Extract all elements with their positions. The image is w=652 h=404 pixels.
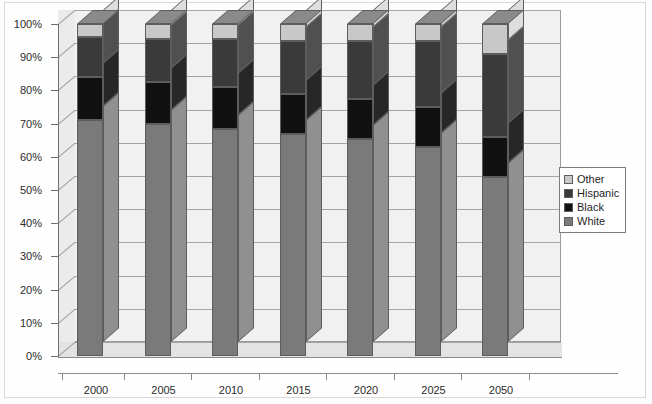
y-axis-label-0: 0% [26,350,42,362]
legend-label-other: Other [577,173,605,185]
y-tick: 70% [51,124,58,125]
bar-2005[interactable] [145,24,171,356]
legend-label-white: White [577,215,605,227]
legend-swatch-other [564,175,573,184]
bar-segment-2005-hispanic[interactable] [145,39,171,82]
chart-page: 0%10%20%30%40%50%60%70%80%90%100% 200020… [0,0,652,404]
y-axis-label-90: 90% [20,51,42,63]
bar-segment-side-2005-white [171,96,187,342]
y-tick: 0% [51,356,58,357]
y-axis-label-70: 70% [20,118,42,130]
bar-segment-2015-other[interactable] [280,24,306,41]
x-axis-label-2000: 2000 [84,384,108,396]
chart-legend: OtherHispanicBlackWhite [559,167,626,233]
bar-segment-2005-other[interactable] [145,24,171,39]
bar-segment-2050-white[interactable] [482,177,508,356]
x-tick [326,373,327,380]
bar-2020[interactable] [347,24,373,356]
bar-segment-2010-hispanic[interactable] [212,39,238,87]
y-tick: 20% [51,290,58,291]
bar-segment-2000-black[interactable] [77,77,103,120]
bar-segment-side-2015-white [306,106,322,342]
y-axis-label-40: 40% [20,217,42,229]
bar-segment-2005-black[interactable] [145,82,171,124]
bar-segment-side-2020-white [373,111,389,342]
bar-segment-2020-white[interactable] [347,139,373,356]
x-axis-baseline [58,373,618,374]
y-tick: 80% [51,90,58,91]
bar-segment-2010-white[interactable] [212,129,238,356]
x-tick [62,373,63,380]
bar-segment-2025-black[interactable] [415,107,441,147]
y-axis-label-10: 10% [20,317,42,329]
x-tick [461,373,462,380]
legend-swatch-white [564,217,573,226]
y-axis-label-50: 50% [20,184,42,196]
y-axis-label-100: 100% [14,18,42,30]
bar-segment-2015-hispanic[interactable] [280,41,306,94]
y-tick: 100% [51,24,58,25]
bar-segment-2015-white[interactable] [280,134,306,356]
x-tick [529,373,530,380]
bar-segment-2000-other[interactable] [77,24,103,37]
bar-2050[interactable] [482,24,508,356]
bar-segment-2025-white[interactable] [415,147,441,356]
y-tick: 10% [51,323,58,324]
bar-segment-2050-hispanic[interactable] [482,54,508,137]
plot-area: 0%10%20%30%40%50%60%70%80%90%100% 200020… [58,24,545,356]
bar-segment-2050-other[interactable] [482,24,508,54]
legend-label-hispanic: Hispanic [577,187,619,199]
x-axis-label-2010: 2010 [219,384,243,396]
bar-segment-side-2025-white [441,119,457,342]
legend-item-other[interactable]: Other [564,172,619,186]
legend-swatch-hispanic [564,189,573,198]
bar-segment-side-2010-white [238,101,254,342]
bar-segment-side-2050-hispanic [508,26,524,123]
bar-segment-2025-hispanic[interactable] [415,41,441,107]
x-tick [124,373,125,380]
bar-segment-2000-hispanic[interactable] [77,37,103,77]
y-tick: 30% [51,256,58,257]
bar-2025[interactable] [415,24,441,356]
bar-segment-2025-other[interactable] [415,24,441,41]
y-tick: 40% [51,223,58,224]
bar-segment-side-2050-white [508,149,524,342]
x-axis-label-2020: 2020 [354,384,378,396]
legend-swatch-black [564,203,573,212]
legend-item-white[interactable]: White [564,214,619,228]
bar-segment-2020-black[interactable] [347,99,373,139]
y-tick: 90% [51,57,58,58]
x-tick [394,373,395,380]
y-tick: 50% [51,190,58,191]
legend-item-black[interactable]: Black [564,200,619,214]
x-axis-label-2025: 2025 [421,384,445,396]
y-tick: 60% [51,157,58,158]
x-axis-label-2050: 2050 [489,384,513,396]
y-axis-label-80: 80% [20,84,42,96]
bar-segment-2015-black[interactable] [280,94,306,134]
y-axis-label-60: 60% [20,151,42,163]
bar-segment-2010-black[interactable] [212,87,238,129]
y-axis-line [58,24,59,357]
x-axis-line [58,357,562,358]
legend-label-black: Black [577,201,604,213]
x-tick [259,373,260,380]
bar-segment-2050-black[interactable] [482,137,508,177]
x-tick [191,373,192,380]
bar-segment-2020-other[interactable] [347,24,373,41]
y-axis-label-20: 20% [20,284,42,296]
x-axis-label-2005: 2005 [151,384,175,396]
bar-2010[interactable] [212,24,238,356]
bar-segment-2020-hispanic[interactable] [347,41,373,99]
bar-segment-2010-other[interactable] [212,24,238,39]
bar-segment-side-2000-white [103,92,119,342]
legend-item-hispanic[interactable]: Hispanic [564,186,619,200]
bar-segment-2005-white[interactable] [145,124,171,356]
bar-2015[interactable] [280,24,306,356]
x-axis-label-2015: 2015 [286,384,310,396]
bar-2000[interactable] [77,24,103,356]
bar-segment-2000-white[interactable] [77,120,103,356]
y-axis-label-30: 30% [20,250,42,262]
